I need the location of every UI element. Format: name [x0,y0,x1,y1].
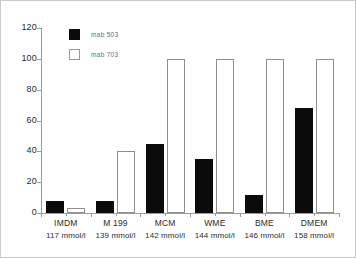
x-category-concentration: 146 mmol/l [240,230,290,242]
bar [146,144,164,213]
bar [167,59,185,213]
y-tick-label: 60 [27,115,37,125]
legend-label: mab 703 [91,51,118,58]
x-category-concentration: 144 mmol/l [190,230,240,242]
x-category-name: M 199 [91,217,141,229]
bar-chart-figure: 020406080100120 mab 503mab 703 IMDM117 m… [0,0,356,258]
bar [117,151,135,213]
bar [266,59,284,213]
x-tick-center [265,213,266,216]
x-category-name: IMDM [41,217,91,229]
y-tick-label: 80 [27,84,37,94]
x-tick-center [116,213,117,216]
x-category-name: WME [190,217,240,229]
y-tick-mark [37,182,42,183]
y-tick-label: 0 [32,207,37,217]
bar-group [146,21,185,213]
x-tick-center [314,213,315,216]
x-axis-category-labels: IMDM117 mmol/lM 199139 mmol/lMCM142 mmol… [41,217,339,253]
x-category-concentration: 158 mmol/l [289,230,339,242]
legend-label: mab 503 [91,31,118,38]
x-category-name: MCM [140,217,190,229]
y-tick-mark [37,90,42,91]
y-tick-mark [37,59,42,60]
legend-swatch-open [69,49,80,60]
bar [216,59,234,213]
x-tick-center [215,213,216,216]
chart-legend: mab 503mab 703 [69,26,118,66]
bar [316,59,334,213]
legend-item: mab 703 [69,46,118,62]
bar [46,201,64,213]
x-category-label: DMEM158 mmol/l [289,217,339,242]
bar [195,159,213,213]
x-category-concentration: 117 mmol/l [41,230,91,242]
y-tick-label: 20 [27,176,37,186]
bar [245,195,263,214]
legend-swatch-filled [69,29,80,40]
y-tick-mark [37,151,42,152]
bar [67,208,85,213]
x-category-label: WME144 mmol/l [190,217,240,242]
x-category-concentration: 142 mmol/l [140,230,190,242]
legend-item: mab 503 [69,26,118,42]
x-category-name: DMEM [289,217,339,229]
x-tick-center [165,213,166,216]
x-category-label: M 199139 mmol/l [91,217,141,242]
bar-group [295,21,334,213]
bar [295,108,313,213]
bar-group [195,21,234,213]
y-tick-mark [37,28,42,29]
x-category-name: BME [240,217,290,229]
y-tick-label: 120 [21,22,37,32]
x-category-label: MCM142 mmol/l [140,217,190,242]
x-tick-center [66,213,67,216]
y-tick-label: 100 [21,53,37,63]
x-category-label: IMDM117 mmol/l [41,217,91,242]
x-tick-boundary [339,213,340,217]
x-category-concentration: 139 mmol/l [91,230,141,242]
bar-group [245,21,284,213]
bar [96,201,114,213]
y-tick-label: 40 [27,145,37,155]
x-category-label: BME146 mmol/l [240,217,290,242]
y-tick-mark [37,121,42,122]
